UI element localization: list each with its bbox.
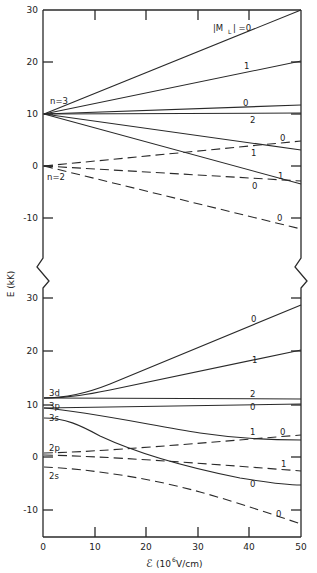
- svg-text:L: L: [228, 28, 232, 35]
- svg-text:1: 1: [250, 427, 255, 437]
- curve-3d-ml0: [44, 305, 301, 398]
- svg-text:10: 10: [27, 400, 39, 410]
- svg-text:n=3: n=3: [50, 96, 68, 106]
- svg-text:40: 40: [243, 542, 255, 552]
- svg-text:0: 0: [250, 479, 255, 489]
- svg-text:30: 30: [27, 293, 39, 303]
- upper-panel-curves: [44, 10, 301, 229]
- svg-text:1: 1: [251, 148, 256, 158]
- svg-text:2p: 2p: [49, 443, 60, 453]
- upper-panel-labels: n=3 n=2 |M L | =0 1 0 2 0 1 1 0 0: [47, 23, 285, 223]
- svg-text:2s: 2s: [49, 471, 59, 481]
- svg-text:3d: 3d: [49, 388, 60, 398]
- svg-text:0: 0: [280, 133, 285, 143]
- svg-text:ℰ: ℰ: [146, 557, 153, 570]
- svg-text:10: 10: [89, 542, 101, 552]
- lower-y-ticks: [43, 298, 301, 537]
- svg-text:(10: (10: [156, 559, 171, 569]
- curve-2p-ml1: [44, 455, 301, 471]
- upper-y-tick-labels: 30 20 10 0 -10: [23, 5, 38, 223]
- svg-text:20: 20: [27, 346, 39, 356]
- svg-text:1: 1: [252, 355, 257, 365]
- curve-2p-ml0: [44, 435, 301, 453]
- curve-3d-ml1: [44, 350, 301, 398]
- svg-text:20: 20: [140, 542, 152, 552]
- svg-text:30: 30: [192, 542, 204, 552]
- svg-text:0: 0: [40, 542, 46, 552]
- x-axis-title: ℰ (10 6 V/cm): [146, 556, 202, 570]
- curve-n3-ml0-top: [44, 10, 301, 114]
- y-axis-title: E (kK): [6, 271, 16, 298]
- svg-text:2: 2: [250, 115, 255, 125]
- curve-n3-ml1-low: [44, 114, 301, 150]
- axes-frame: [37, 10, 307, 537]
- svg-text:3s: 3s: [49, 413, 59, 423]
- curve-n2-ml0-low: [44, 166, 301, 229]
- curve-2s-ml0: [44, 467, 301, 524]
- ml-header-label: |M L | =0: [213, 23, 251, 35]
- right-y-axis-with-break: [295, 10, 307, 537]
- x-tick-labels: 0 10 20 30 40 50: [40, 542, 307, 552]
- svg-text:1: 1: [278, 171, 283, 181]
- svg-text:0: 0: [251, 314, 256, 324]
- lower-y-tick-labels: 30 20 10 0 -10: [23, 293, 38, 515]
- svg-text:0: 0: [252, 181, 257, 191]
- svg-text:10: 10: [27, 109, 39, 119]
- svg-text:0: 0: [32, 161, 38, 171]
- svg-text:3p: 3p: [49, 401, 60, 411]
- svg-text:1: 1: [281, 459, 286, 469]
- curve-3p-ml1: [44, 408, 301, 440]
- svg-text:0: 0: [32, 452, 38, 462]
- svg-text:0: 0: [276, 509, 281, 519]
- svg-text:0: 0: [243, 98, 248, 108]
- svg-text:V/cm): V/cm): [176, 559, 202, 569]
- svg-text:| =0: | =0: [233, 23, 251, 33]
- svg-text:0: 0: [280, 427, 285, 437]
- curve-3p-ml0: [44, 404, 301, 408]
- svg-text:20: 20: [27, 57, 39, 67]
- left-y-axis-with-break: [37, 10, 49, 537]
- svg-text:-10: -10: [23, 505, 38, 515]
- svg-text:n=2: n=2: [47, 172, 65, 182]
- svg-text:2: 2: [250, 389, 255, 399]
- svg-text:50: 50: [295, 542, 307, 552]
- svg-text:30: 30: [27, 5, 39, 15]
- svg-text:0: 0: [250, 402, 255, 412]
- svg-text:0: 0: [277, 213, 282, 223]
- stark-energy-chart: 30 20 10 0 -10 30 20 10 0 -10 0 10 20 30…: [0, 0, 317, 573]
- lower-panel-labels: 3d 3p 3s 2p 2s 0 1 2 0 1 0 1 0 0: [49, 314, 286, 519]
- curve-3d-ml2: [44, 398, 301, 399]
- lower-panel-curves: [44, 305, 301, 524]
- svg-text:|M: |M: [213, 23, 223, 33]
- svg-text:-10: -10: [23, 213, 38, 223]
- svg-text:1: 1: [244, 61, 249, 71]
